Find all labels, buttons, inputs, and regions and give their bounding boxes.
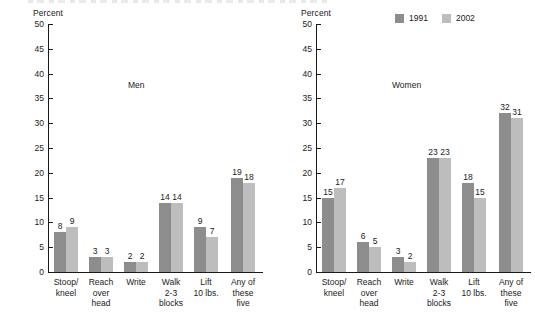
x-axis-category-label: Any of these five bbox=[221, 277, 265, 309]
y-axis-tick-label: 15 bbox=[20, 193, 44, 203]
y-axis-tick-label: 20 bbox=[288, 168, 312, 178]
x-axis-category-label: Any of these five bbox=[489, 277, 533, 309]
bar-value-label: 15 bbox=[470, 187, 490, 197]
bar-value-label: 3 bbox=[97, 246, 117, 256]
bar bbox=[499, 113, 511, 272]
y-axis-tick-label: 40 bbox=[20, 69, 44, 79]
bar bbox=[334, 188, 346, 272]
bar bbox=[66, 227, 78, 272]
bar-value-label: 23 bbox=[435, 147, 455, 157]
bar bbox=[136, 262, 148, 272]
bar bbox=[357, 242, 369, 272]
bar bbox=[101, 257, 113, 272]
y-axis-tick-label: 10 bbox=[288, 217, 312, 227]
chart-panel-men: Percent Men 05101520253035404550 8933221… bbox=[0, 0, 267, 326]
y-axis-tick-label: 25 bbox=[20, 143, 44, 153]
bar-value-label: 5 bbox=[365, 236, 385, 246]
bar bbox=[243, 183, 255, 272]
y-axis-tick-mark bbox=[316, 272, 321, 273]
bar bbox=[54, 232, 66, 272]
bar bbox=[439, 158, 451, 272]
bar-value-label: 18 bbox=[458, 172, 478, 182]
bar-value-label: 9 bbox=[62, 216, 82, 226]
bar-value-label: 31 bbox=[507, 107, 527, 117]
legend-label-2002: 2002 bbox=[456, 13, 475, 23]
y-axis-tick-label: 50 bbox=[20, 19, 44, 29]
y-axis-tick-label: 20 bbox=[20, 168, 44, 178]
bar-value-label: 14 bbox=[167, 192, 187, 202]
y-axis-tick-label: 50 bbox=[288, 19, 312, 29]
y-axis-tick-label: 0 bbox=[20, 267, 44, 277]
chart-panel-women: Percent Women 05101520253035404550 15176… bbox=[268, 0, 535, 326]
bar bbox=[474, 198, 486, 272]
bar bbox=[206, 237, 218, 272]
bar-value-label: 17 bbox=[330, 177, 350, 187]
bar-value-label: 18 bbox=[239, 172, 259, 182]
bar-value-label: 9 bbox=[190, 216, 210, 226]
plot-area-women: 15176532232318153231 bbox=[317, 24, 531, 272]
legend-item-1991: 1991 bbox=[395, 13, 428, 23]
y-axis-unit-label-women: Percent bbox=[301, 8, 331, 18]
bar bbox=[369, 247, 381, 272]
bar bbox=[89, 257, 101, 272]
bar bbox=[171, 203, 183, 272]
y-axis-tick-label: 5 bbox=[288, 242, 312, 252]
y-axis-tick-label: 45 bbox=[288, 44, 312, 54]
bar bbox=[231, 178, 243, 272]
x-axis-line-men bbox=[48, 272, 263, 273]
y-axis-tick-label: 0 bbox=[288, 267, 312, 277]
bar-value-label: 7 bbox=[202, 226, 222, 236]
bar bbox=[511, 118, 523, 272]
plot-area-men: 8933221414971918 bbox=[49, 24, 263, 272]
legend-item-2002: 2002 bbox=[442, 13, 475, 23]
y-axis-tick-label: 45 bbox=[20, 44, 44, 54]
y-axis-tick-label: 30 bbox=[20, 118, 44, 128]
y-axis-unit-label-men: Percent bbox=[33, 8, 63, 18]
bar bbox=[404, 262, 416, 272]
y-axis-tick-label: 40 bbox=[288, 69, 312, 79]
bar bbox=[124, 262, 136, 272]
y-axis-tick-label: 35 bbox=[288, 93, 312, 103]
y-axis-tick-label: 5 bbox=[20, 242, 44, 252]
x-axis-line-women bbox=[316, 272, 531, 273]
y-axis-tick-label: 35 bbox=[20, 93, 44, 103]
grouped-bar-chart-figure: Percent Men 05101520253035404550 8933221… bbox=[0, 0, 535, 326]
chart-legend: 1991 2002 bbox=[395, 13, 475, 23]
y-axis-tick-label: 10 bbox=[20, 217, 44, 227]
bar-value-label: 2 bbox=[400, 251, 420, 261]
bar-value-label: 2 bbox=[132, 251, 152, 261]
y-axis-tick-mark bbox=[48, 272, 53, 273]
bar bbox=[322, 198, 334, 272]
y-axis-tick-label: 15 bbox=[288, 193, 312, 203]
legend-swatch-1991 bbox=[395, 14, 404, 23]
bar bbox=[427, 158, 439, 272]
y-axis-tick-label: 25 bbox=[288, 143, 312, 153]
bar bbox=[159, 203, 171, 272]
legend-swatch-2002 bbox=[442, 14, 451, 23]
legend-label-1991: 1991 bbox=[409, 13, 428, 23]
y-axis-tick-label: 30 bbox=[288, 118, 312, 128]
